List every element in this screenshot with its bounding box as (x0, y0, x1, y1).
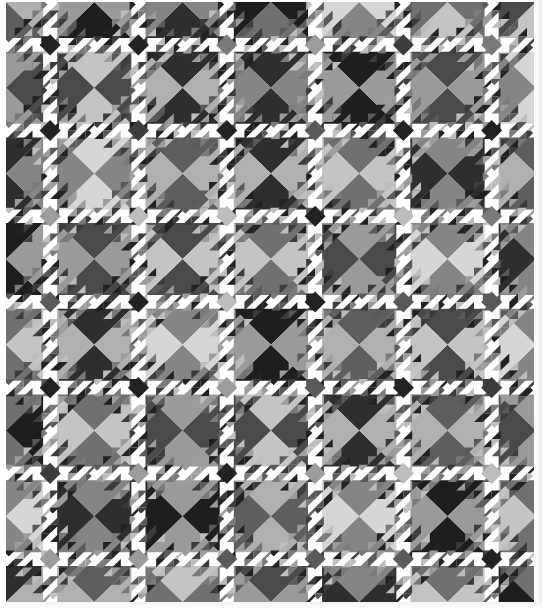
ocean-waves-quilt-pattern (6, 2, 536, 602)
quilt-photograph (6, 2, 536, 602)
quilt-bottom-edge (0, 602, 542, 610)
quilt-right-edge (534, 0, 542, 610)
